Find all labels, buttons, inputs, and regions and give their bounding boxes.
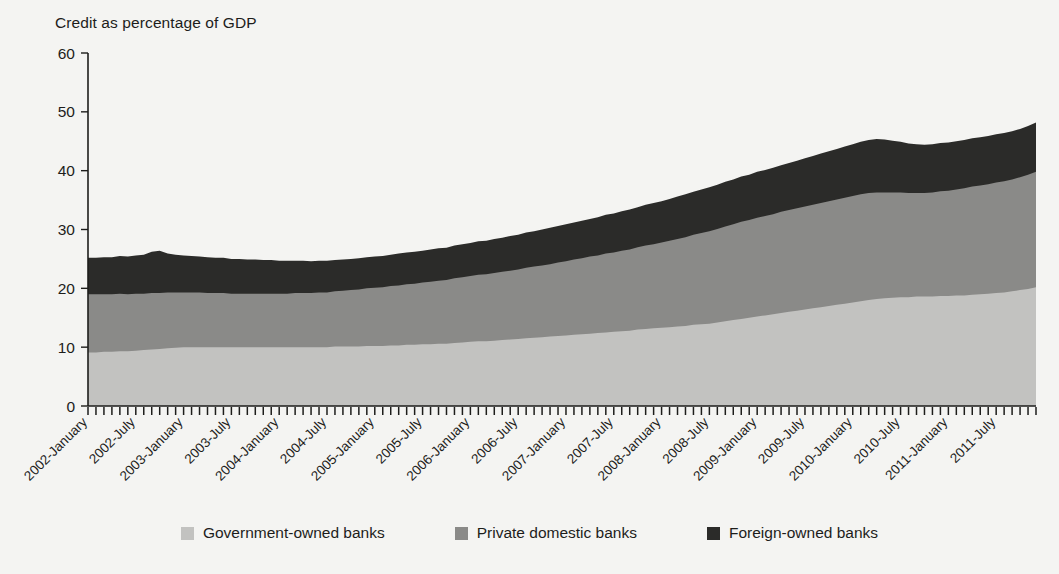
- plot-area: 0102030405060 2002-January2002-July2003-…: [0, 0, 1059, 574]
- y-tick-label: 50: [58, 103, 76, 120]
- y-tick-label: 30: [58, 221, 76, 238]
- x-tick-label: 2002-January: [21, 414, 90, 483]
- y-tick-label: 10: [58, 339, 76, 356]
- area-series-group: [88, 122, 1036, 406]
- legend-label: Foreign-owned banks: [729, 524, 878, 542]
- y-tick-label: 20: [58, 280, 76, 297]
- x-tick-labels: 2002-January2002-July2003-January2003-Ju…: [21, 414, 998, 483]
- y-tick-labels: 0102030405060: [58, 45, 76, 415]
- stacked-area-chart: 0102030405060 2002-January2002-July2003-…: [0, 0, 1059, 574]
- legend-label: Private domestic banks: [477, 524, 637, 542]
- legend-item[interactable]: Foreign-owned banks: [707, 524, 878, 542]
- y-tick-label: 0: [66, 398, 75, 415]
- legend-item[interactable]: Private domestic banks: [455, 524, 637, 542]
- legend-label: Government-owned banks: [203, 524, 385, 542]
- chart-legend: Government-owned banksPrivate domestic b…: [0, 524, 1059, 542]
- legend-swatch-icon: [455, 527, 468, 540]
- chart-root: Credit as percentage of GDP 010203040506…: [0, 0, 1059, 574]
- legend-swatch-icon: [707, 527, 720, 540]
- legend-item[interactable]: Government-owned banks: [181, 524, 385, 542]
- x-tick-label: 2011-July: [947, 414, 998, 465]
- legend-swatch-icon: [181, 527, 194, 540]
- y-tick-label: 40: [58, 162, 76, 179]
- y-tick-label: 60: [58, 45, 76, 62]
